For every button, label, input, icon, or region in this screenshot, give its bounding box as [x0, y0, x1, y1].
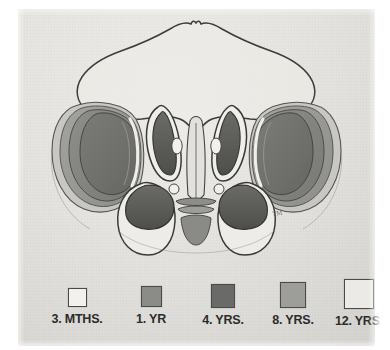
legend-swatch-8-years — [280, 282, 306, 308]
legend-label-3-months: 3. MTHS. — [40, 312, 114, 326]
left-antrum-lobe — [118, 183, 179, 256]
legend-swatch-4-years — [211, 284, 235, 308]
anatomical-plate: ™ 3. MTHS. 1. YR 4. YRS. 8. YRS. 12. YRS… — [0, 0, 390, 350]
nasal-septum — [176, 117, 216, 246]
age-legend: 3. MTHS. 1. YR 4. YRS. 8. YRS. 12. YRS. — [18, 278, 375, 340]
artist-monogram-icon: ™ — [271, 207, 289, 223]
scan-edge-left — [0, 0, 24, 350]
legend-label-4-years: 4. YRS. — [184, 313, 262, 327]
legend-item-3-months[interactable]: 3. MTHS. — [40, 288, 114, 326]
legend-label-1-year: 1. YR — [114, 312, 188, 326]
legend-swatch-3-months — [68, 288, 87, 307]
right-antrum-lobe — [214, 183, 275, 256]
legend-item-1-year[interactable]: 1. YR — [114, 286, 188, 326]
legend-swatch-1-year — [141, 286, 162, 307]
paranasal-sinus-growth-diagram — [18, 9, 375, 274]
scan-edge-top — [0, 0, 390, 16]
scan-edge-right — [368, 0, 390, 350]
legend-item-4-years[interactable]: 4. YRS. — [184, 284, 262, 327]
scan-edge-bottom — [0, 340, 390, 350]
